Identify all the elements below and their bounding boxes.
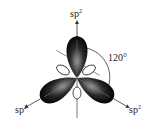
p-lobe-small [55, 63, 71, 77]
left-axis-arrow [26, 99, 40, 107]
label-left-sp2: sp2 [15, 104, 27, 115]
label-angle: 120° [108, 53, 127, 63]
p-lobe-small [73, 87, 81, 99]
right-axis-arrow [114, 99, 128, 107]
label-right-sp2: sp2 [129, 104, 141, 115]
label-top-sp2: sp2 [70, 8, 82, 19]
